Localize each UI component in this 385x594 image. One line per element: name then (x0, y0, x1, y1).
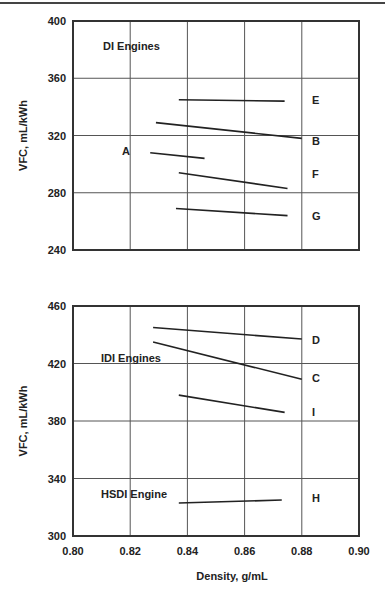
series-label-e: E (312, 94, 319, 106)
series-line-h (179, 500, 282, 503)
x-tick-label: 0.84 (177, 545, 199, 557)
x-tick-label: 0.86 (234, 545, 255, 557)
group-label-idi-engines: IDI Engines (101, 352, 161, 364)
y-tick-label: 420 (48, 358, 66, 370)
series-line-d (153, 328, 302, 340)
y-tick-label: 380 (48, 415, 66, 427)
series-line-b (156, 123, 302, 139)
y-tick-label: 280 (48, 187, 66, 199)
y-tick-label: 460 (48, 300, 66, 312)
x-tick-label: 0.88 (291, 545, 312, 557)
density-vfc-chart: 240280320360400EBAFGVFC, mL/kWh300340380… (0, 0, 385, 594)
series-label-c: C (312, 372, 320, 384)
series-label-i: I (312, 406, 315, 418)
x-tick-label: 0.82 (119, 545, 140, 557)
y-tick-label: 340 (48, 473, 66, 485)
x-tick-label: 0.80 (62, 545, 83, 557)
series-label-b: B (312, 135, 320, 147)
series-line-a (150, 153, 204, 159)
series-line-e (179, 100, 285, 101)
y-tick-label: 320 (48, 130, 66, 142)
y-tick-label: 400 (48, 15, 66, 27)
y-axis-title: VFC, mL/kWh (17, 385, 29, 456)
series-line-g (176, 208, 288, 215)
y-tick-label: 300 (48, 530, 66, 542)
series-label-h: H (312, 492, 320, 504)
group-label-hsdi-engine: HSDI Engine (101, 488, 167, 500)
y-tick-label: 360 (48, 72, 66, 84)
x-tick-label: 0.90 (348, 545, 369, 557)
series-label-g: G (312, 210, 321, 222)
series-label-a: A (122, 145, 130, 157)
group-label-di-engines: DI Engines (103, 40, 160, 52)
x-axis-title: Density, g/mL (196, 570, 268, 582)
series-label-d: D (312, 334, 320, 346)
y-tick-label: 240 (48, 244, 66, 256)
series-line-i (179, 395, 285, 412)
series-line-c (153, 342, 302, 379)
y-axis-title: VFC, mL/kWh (17, 100, 29, 171)
series-line-f (179, 173, 288, 189)
series-label-f: F (312, 168, 319, 180)
